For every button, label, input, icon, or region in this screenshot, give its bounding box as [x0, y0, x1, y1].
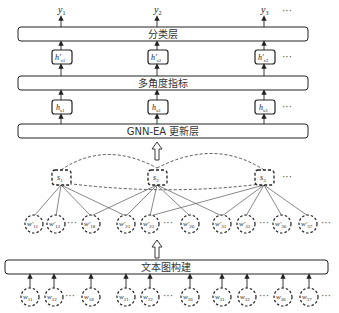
output-arrows — [61, 18, 264, 27]
word-to-text-graph-arrows — [30, 276, 309, 288]
word-prime-node-12: w′12 — [47, 215, 65, 233]
word-node-36: w36 — [274, 288, 292, 306]
h-nodes: hs1 hs2 hs3 ··· — [52, 100, 292, 114]
word-ellipsis-2: ··· — [163, 290, 173, 301]
word-node-37: w37 — [300, 288, 318, 306]
multi-angle-to-hprime-arrows — [61, 66, 264, 76]
sentence-ellipsis: ··· — [282, 171, 292, 182]
hollow-up-arrow-icon-2 — [152, 240, 162, 258]
word-node-18: w18 — [82, 288, 100, 306]
multi-angle-layer: 多角度指标 — [18, 76, 308, 90]
word-prime-nodes: w′11 w′12 ··· w′18 w′21 w′22 ··· w′26 w′… — [25, 215, 331, 233]
sentence-node-s3: s3 — [255, 170, 274, 185]
word-node-11: w11 — [21, 288, 39, 306]
output-y3: y3 — [260, 4, 268, 16]
h-node-s3: hs3 — [255, 100, 275, 114]
word-node-32: w32 — [238, 288, 256, 306]
word-nodes: w11 w12 ··· w18 w21 w22 ··· w26 w31 — [21, 288, 331, 306]
word-prime-node-36: w′36 — [273, 215, 291, 233]
word-prime-node-21: w′21 — [117, 215, 135, 233]
sentence-node-s2: s2 — [148, 170, 167, 185]
h-prime-nodes: h′s1 h′s2 h′s3 ··· — [52, 50, 292, 64]
gnn-ea-layer-label: GNN-EA 更新层 — [127, 125, 200, 137]
h-prime-ellipsis: ··· — [282, 51, 292, 62]
word-node-21: w21 — [117, 288, 135, 306]
output-y1: y1 — [57, 4, 65, 16]
output-ellipsis: ··· — [282, 5, 292, 16]
word-prime-node-32: w′32 — [237, 215, 255, 233]
gnn-ea-update-layer: GNN-EA 更新层 — [18, 124, 308, 138]
word-prime-node-18: w′18 — [82, 215, 100, 233]
word-ellipsis-4: ··· — [321, 290, 331, 301]
word-prime-node-37: w′37 — [299, 215, 317, 233]
hprime-to-classification-arrows — [61, 43, 264, 50]
gnn-ea-architecture-diagram: y1 y2 y3 ··· 分类层 h′s1 h′s2 h′s3 ··· — [0, 0, 339, 313]
word-prime-node-26: w′26 — [181, 215, 199, 233]
text-graph-layer-label: 文本图构建 — [141, 261, 191, 273]
gnn-to-h-arrows — [61, 116, 264, 124]
word-prime-ellipsis-1: ··· — [67, 217, 77, 228]
h-ellipsis: ··· — [282, 101, 292, 112]
word-prime-ellipsis-3: ··· — [259, 217, 269, 228]
sentence-node-s1: s1 — [52, 170, 71, 185]
word-prime-node-22: w′22 — [141, 215, 159, 233]
h-prime-node-s3: h′s3 — [255, 50, 275, 64]
h-node-s1: hs1 — [52, 100, 72, 114]
h-node-s2: hs2 — [148, 100, 168, 114]
h-to-multi-angle-arrows — [61, 92, 264, 100]
word-prime-ellipsis-2: ··· — [163, 217, 173, 228]
multi-angle-layer-label: 多角度指标 — [138, 77, 188, 89]
word-prime-ellipsis-4: ··· — [321, 217, 331, 228]
word-ellipsis-1: ··· — [65, 290, 75, 301]
word-node-22: w22 — [141, 288, 159, 306]
classification-layer: 分类层 — [18, 27, 308, 41]
h-prime-node-s1: h′s1 — [52, 50, 72, 64]
word-prime-node-31: w′31 — [213, 215, 231, 233]
classification-layer-label: 分类层 — [148, 28, 178, 40]
output-y2: y2 — [153, 4, 161, 16]
word-node-26: w26 — [181, 288, 199, 306]
word-node-12: w12 — [45, 288, 63, 306]
sentence-nodes: s1 s2 s3 ··· — [52, 170, 292, 185]
word-ellipsis-3: ··· — [259, 290, 269, 301]
output-labels: y1 y2 y3 ··· — [57, 4, 292, 16]
hollow-up-arrow-icon — [152, 142, 162, 160]
word-prime-node-11: w′11 — [25, 215, 43, 233]
h-prime-node-s2: h′s2 — [148, 50, 168, 64]
word-node-31: w31 — [213, 288, 231, 306]
text-graph-construction-layer: 文本图构建 — [5, 260, 328, 274]
